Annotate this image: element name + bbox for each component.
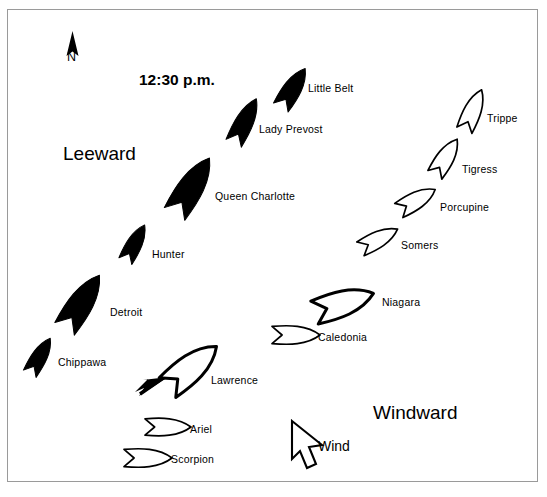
- ship-chippawa[interactable]: [23, 334, 57, 377]
- ship-niagara[interactable]: [310, 281, 377, 325]
- ship-somers[interactable]: [357, 222, 402, 256]
- annotation-12-30-p-m: 12:30 p.m.: [139, 71, 215, 89]
- ship-label-hunter: Hunter: [152, 248, 185, 260]
- ship-scorpion[interactable]: [124, 449, 172, 468]
- ship-hull: [357, 222, 402, 256]
- ship-label-lawrence: Lawrence: [211, 374, 258, 386]
- ship-label-ariel: Ariel: [190, 423, 212, 435]
- ship-label-trippe: Trippe: [487, 112, 518, 124]
- ship-trippe[interactable]: [456, 86, 489, 133]
- ship-hull: [456, 86, 489, 133]
- ship-label-somers: Somers: [401, 239, 438, 251]
- ship-hull: [23, 334, 57, 377]
- ship-label-niagara: Niagara: [382, 296, 420, 308]
- ship-label-tigress: Tigress: [462, 163, 497, 175]
- ship-tigress[interactable]: [427, 135, 464, 180]
- ship-hull: [54, 268, 110, 335]
- ship-hull: [163, 151, 220, 221]
- ship-label-chippawa: Chippawa: [58, 356, 106, 368]
- ship-hull: [145, 418, 191, 436]
- ship-hunter[interactable]: [118, 221, 151, 265]
- ship-label-lady-prevost: Lady Prevost: [259, 123, 323, 135]
- annotation-n: N: [67, 50, 76, 64]
- ship-detroit[interactable]: [54, 268, 110, 335]
- ship-hull: [118, 221, 151, 265]
- ship-lawrence[interactable]: [159, 336, 226, 398]
- annotation-windward: Windward: [373, 402, 457, 424]
- annotation-wind: Wind: [318, 438, 350, 454]
- ship-hull: [225, 95, 264, 148]
- ship-queen-charlotte[interactable]: [163, 151, 220, 221]
- ship-hull: [272, 326, 320, 345]
- ship-label-detroit: Detroit: [110, 306, 142, 318]
- annotation-leeward: Leeward: [63, 143, 136, 165]
- ship-hull: [427, 135, 464, 180]
- ship-porcupine[interactable]: [394, 182, 439, 218]
- ship-ariel[interactable]: [145, 418, 191, 436]
- ship-lady-prevost[interactable]: [225, 95, 264, 148]
- ship-label-caledonia: Caledonia: [318, 331, 367, 343]
- ship-hull: [394, 182, 439, 218]
- ship-hull: [159, 336, 226, 398]
- ship-label-porcupine: Porcupine: [440, 201, 489, 213]
- ship-label-little-belt: Little Belt: [308, 82, 353, 94]
- battle-diagram-canvas: [0, 0, 547, 497]
- ship-label-scorpion: Scorpion: [171, 453, 214, 465]
- ship-caledonia[interactable]: [272, 326, 320, 345]
- ship-label-queen-charlotte: Queen Charlotte: [215, 190, 295, 202]
- ship-hull: [310, 281, 377, 325]
- ship-hull: [124, 449, 172, 468]
